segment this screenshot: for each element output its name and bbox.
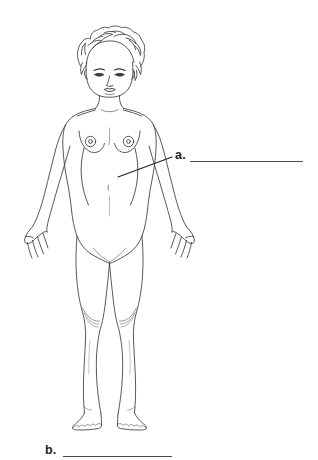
thumb-right — [186, 236, 194, 238]
body-outline-group — [25, 26, 195, 430]
toe-right-5 — [118, 424, 124, 426]
eyebrow-left — [94, 69, 105, 71]
nose-nostril-left — [107, 86, 111, 87]
finger-left-3 — [38, 237, 44, 254]
hair-curl-10 — [104, 31, 116, 33]
hair-curl-2 — [100, 33, 113, 40]
neck-hollow — [101, 110, 118, 112]
arm-right-outer — [154, 125, 187, 226]
toe-right-1 — [141, 426, 146, 428]
toe-right-2 — [135, 425, 140, 427]
ankle-right — [128, 407, 135, 410]
finger-left-1 — [28, 243, 33, 259]
hair-curl-7 — [81, 63, 86, 75]
leg-right-inner — [110, 263, 123, 414]
finger-left-2 — [33, 241, 39, 258]
navel — [108, 185, 109, 191]
toe-left-3 — [85, 425, 90, 427]
waist-left-line — [81, 148, 88, 205]
answer-blank-a[interactable] — [190, 161, 303, 162]
neck-right — [119, 96, 123, 109]
answer-blank-b[interactable] — [63, 456, 172, 457]
label-b-marker: b. — [45, 444, 57, 457]
nipple-areola-right — [123, 136, 133, 146]
nipple-right — [127, 140, 131, 144]
mouth-lower — [105, 90, 116, 92]
shin-right-line — [129, 340, 130, 374]
nipple-left — [89, 140, 93, 144]
foot-left-outline — [73, 413, 102, 430]
nipple-areola-left — [85, 136, 95, 146]
shin-left-line — [89, 340, 90, 374]
foot-right-outline — [118, 413, 147, 430]
hair-curl-6 — [81, 43, 85, 55]
finger-right-2 — [181, 241, 187, 258]
waist-right-line — [131, 148, 138, 205]
nose-nostril-right — [111, 85, 113, 86]
arm-right-inner — [149, 146, 172, 232]
toe-left-5 — [96, 424, 102, 426]
finger-right-1 — [187, 243, 192, 259]
neck-left — [96, 96, 100, 109]
hair-curl-12 — [129, 40, 136, 50]
finger-left-4 — [43, 234, 48, 249]
label-a-pointer-line — [118, 157, 172, 177]
thumb-left — [26, 236, 34, 238]
toe-left-1 — [74, 426, 79, 428]
leg-left-inner — [96, 263, 109, 414]
sternum-line — [109, 128, 110, 145]
ankle-left — [85, 407, 92, 410]
eye-left — [95, 73, 105, 76]
label-a-marker: a. — [175, 149, 186, 162]
arm-left-inner — [47, 146, 70, 232]
finger-right-4 — [171, 234, 176, 249]
breast-right-underline — [115, 131, 141, 153]
leg-left-outer — [76, 236, 86, 413]
arm-left-outer — [33, 125, 66, 226]
torso-right-outline — [124, 109, 157, 255]
mouth-upper — [105, 88, 116, 89]
nose-line — [107, 76, 110, 85]
hair-curl-1 — [88, 40, 102, 48]
eyebrow-right — [115, 69, 126, 71]
toe-left-2 — [79, 425, 84, 427]
crotch-line — [91, 254, 128, 263]
worksheet-canvas: a. b. — [0, 0, 318, 460]
finger-right-3 — [176, 237, 182, 254]
toe-left-4 — [90, 424, 95, 426]
leg-right-outer — [133, 236, 143, 413]
toe-right-3 — [130, 425, 135, 427]
female-body-diagram — [0, 0, 318, 460]
chin-crease — [106, 94, 115, 95]
eye-right — [115, 73, 125, 76]
hairline-line — [87, 41, 135, 64]
toe-right-4 — [124, 424, 129, 426]
breast-left-underline — [79, 131, 105, 153]
torso-left-outline — [63, 109, 96, 255]
hair-curl-4 — [126, 35, 137, 44]
